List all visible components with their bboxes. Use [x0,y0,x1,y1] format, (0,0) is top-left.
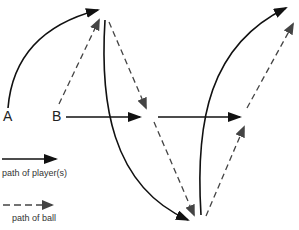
ball-path-b-to-a [59,20,99,104]
player-a-label: A [3,108,12,124]
player-path-a-run-up [8,10,98,108]
legend-player-label: path of player(s) [2,168,67,178]
player-path-a-run-down [104,20,188,220]
player-path-run-up-right [200,8,286,215]
ball-path-to-middle-right [206,127,244,216]
passing-drill-diagram: A B path of player(s) path of ball [0,0,299,230]
player-b-label: B [52,108,61,124]
legend-ball-label: path of ball [12,213,56,223]
ball-path-to-bottom [154,122,194,215]
ball-path-to-top-right [247,24,293,108]
diagram-paths [0,0,299,230]
ball-path-to-middle [109,22,146,108]
